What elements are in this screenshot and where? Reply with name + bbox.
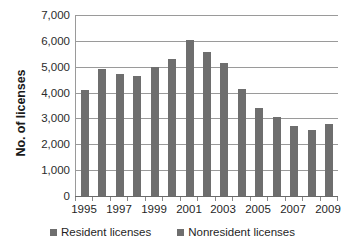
bar bbox=[81, 90, 89, 196]
legend-swatch-icon bbox=[177, 229, 184, 236]
x-axis-tick bbox=[302, 197, 303, 201]
bar bbox=[325, 124, 333, 196]
bar bbox=[308, 130, 316, 196]
legend-swatch-icon bbox=[50, 229, 57, 236]
x-axis-tick-label: 2005 bbox=[238, 203, 278, 215]
bar bbox=[203, 52, 211, 196]
legend-label: Resident licenses bbox=[61, 226, 151, 238]
bars-layer bbox=[76, 15, 338, 196]
bar bbox=[273, 117, 281, 196]
x-axis-tick bbox=[127, 197, 128, 201]
y-axis-tick-label: 2,000 bbox=[24, 138, 70, 150]
x-axis-tick bbox=[180, 197, 181, 201]
y-axis-tick-label: 5,000 bbox=[24, 61, 70, 73]
y-axis-tick-label: 1,000 bbox=[24, 164, 70, 176]
bar bbox=[186, 40, 194, 196]
bar bbox=[116, 74, 124, 196]
x-axis-tick-label: 2007 bbox=[273, 203, 313, 215]
x-axis-tick bbox=[75, 197, 76, 201]
y-axis-tick-label: 4,000 bbox=[24, 87, 70, 99]
bar bbox=[133, 76, 141, 196]
legend-label: Nonresident licenses bbox=[188, 226, 295, 238]
legend-item[interactable]: Nonresident licenses bbox=[177, 226, 295, 238]
x-axis-tick bbox=[320, 197, 321, 201]
chart-legend: Resident licensesNonresident licenses bbox=[0, 226, 345, 238]
x-axis-tick bbox=[285, 197, 286, 201]
x-axis-tick bbox=[145, 197, 146, 201]
y-axis-tick-labels: 01,0002,0003,0004,0005,0006,0007,000 bbox=[24, 9, 70, 201]
y-axis-tick-label: 3,000 bbox=[24, 112, 70, 124]
x-axis-tick-label: 2003 bbox=[203, 203, 243, 215]
bar bbox=[290, 126, 298, 196]
bar bbox=[151, 67, 159, 196]
x-axis-tick bbox=[232, 197, 233, 201]
x-axis-tick bbox=[110, 197, 111, 201]
x-axis-ticks bbox=[75, 197, 338, 202]
x-axis-tick-label: 1997 bbox=[99, 203, 139, 215]
x-axis-tick bbox=[197, 197, 198, 201]
x-axis-tick bbox=[92, 197, 93, 201]
legend-item[interactable]: Resident licenses bbox=[50, 226, 151, 238]
bar-chart-figure: No. of licenses 01,0002,0003,0004,0005,0… bbox=[0, 0, 345, 249]
x-axis-tick-labels: 19951997199920012003200520072009 bbox=[75, 203, 338, 219]
x-axis-tick-label: 1995 bbox=[64, 203, 104, 215]
y-axis-tick-label: 0 bbox=[24, 190, 70, 202]
x-axis-tick bbox=[337, 197, 338, 201]
x-axis-tick bbox=[250, 197, 251, 201]
bar bbox=[98, 69, 106, 196]
x-axis-tick-label: 1999 bbox=[134, 203, 174, 215]
x-axis-tick bbox=[162, 197, 163, 201]
bar bbox=[220, 63, 228, 196]
bar bbox=[238, 89, 246, 196]
bar bbox=[168, 59, 176, 196]
bar bbox=[255, 108, 263, 196]
x-axis-tick bbox=[215, 197, 216, 201]
plot-area bbox=[75, 15, 338, 196]
y-axis-tick-label: 7,000 bbox=[24, 9, 70, 21]
x-axis-tick bbox=[267, 197, 268, 201]
y-axis-tick-label: 6,000 bbox=[24, 35, 70, 47]
x-axis-tick-label: 2009 bbox=[308, 203, 345, 215]
